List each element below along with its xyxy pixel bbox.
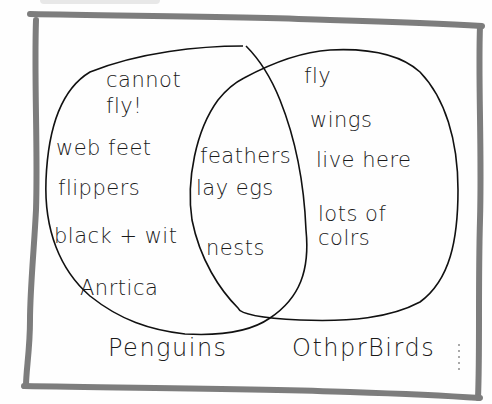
shared-item-nests: nests bbox=[206, 236, 265, 260]
penguins-item-flippers: flippers bbox=[58, 176, 140, 200]
penguins-set-label: Penguins bbox=[108, 334, 228, 362]
other-birds-item-fly: fly bbox=[304, 64, 331, 88]
other-birds-item-live-here: live here bbox=[316, 148, 412, 172]
penguins-item-fly: fly! bbox=[106, 94, 142, 118]
other-birds-item-colors: colrs bbox=[318, 226, 370, 250]
penguins-item-antarctica: Anrtica bbox=[80, 276, 158, 300]
other-birds-item-lots-of: lots of bbox=[318, 202, 386, 226]
shared-item-feathers: feathers bbox=[200, 144, 291, 168]
drawing-canvas: cannot fly! web feet flippers black + wi… bbox=[0, 0, 492, 404]
penguins-item-web-feet: web feet bbox=[56, 136, 152, 160]
other-birds-set-label: OthprBirds bbox=[292, 334, 435, 362]
shared-item-lay-eggs: lay egs bbox=[196, 176, 274, 200]
other-birds-item-wings: wings bbox=[310, 108, 372, 132]
penguins-item-cannot: cannot bbox=[106, 68, 181, 92]
penguins-item-black-and-white: black + wit bbox=[54, 224, 177, 248]
